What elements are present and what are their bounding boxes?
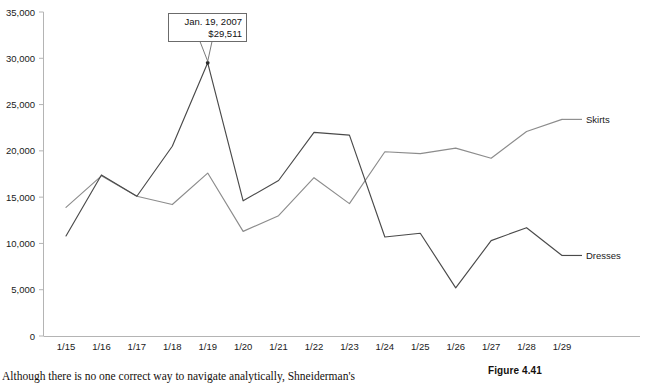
y-tick-label-5000: 5,000 — [11, 284, 35, 295]
figure-caption: Figure 4.41 — [488, 365, 542, 376]
chart-canvas: 35,00030,00025,00020,00015,00010,0005,00… — [0, 0, 655, 362]
x-tick-label-1-27: 1/27 — [482, 341, 501, 352]
y-tick-label-20000: 20,000 — [6, 145, 35, 156]
x-tick-label-1-21: 1/21 — [269, 341, 288, 352]
y-axis-tick-labels: 35,00030,00025,00020,00015,00010,0005,00… — [6, 7, 35, 342]
body-paragraph-text: Although there is no one correct way to … — [2, 370, 432, 383]
x-tick-label-1-28: 1/28 — [517, 341, 536, 352]
y-tick-label-35000: 35,000 — [6, 7, 35, 18]
x-tick-label-1-18: 1/18 — [163, 341, 182, 352]
annotation-leader-line — [200, 42, 212, 62]
x-tick-label-1-17: 1/17 — [128, 341, 147, 352]
x-tick-label-1-23: 1/23 — [340, 341, 359, 352]
peak-point-dot[interactable] — [206, 61, 210, 65]
x-tick-label-1-25: 1/25 — [411, 341, 430, 352]
highlighted-data-point[interactable] — [206, 61, 210, 65]
series-inline-labels: SkirtsDresses — [562, 114, 621, 261]
x-tick-label-1-22: 1/22 — [305, 341, 324, 352]
x-tick-label-1-15: 1/15 — [57, 341, 76, 352]
figure-container: 35,00030,00025,00020,00015,00010,0005,00… — [0, 0, 655, 386]
x-tick-label-1-26: 1/26 — [446, 341, 465, 352]
callout-value-label: $29,511 — [208, 28, 242, 39]
x-tick-label-1-19: 1/19 — [198, 341, 217, 352]
callout-pointer-right — [208, 42, 212, 62]
series-line-dresses — [66, 63, 562, 288]
y-tick-label-25000: 25,000 — [6, 99, 35, 110]
chart-series-group — [66, 63, 562, 288]
x-tick-label-1-20: 1/20 — [234, 341, 253, 352]
x-tick-label-1-29: 1/29 — [553, 341, 572, 352]
y-tick-label-15000: 15,000 — [6, 192, 35, 203]
series-label-skirts: Skirts — [586, 114, 610, 125]
data-point-callout[interactable]: Jan. 19, 2007 $29,511 — [169, 14, 247, 42]
series-label-dresses: Dresses — [586, 250, 621, 261]
page-footer: Although there is no one correct way to … — [0, 362, 655, 386]
y-tick-label-10000: 10,000 — [6, 238, 35, 249]
x-axis-tick-labels: 1/151/161/171/181/191/201/211/221/231/24… — [57, 341, 572, 352]
x-tick-label-1-16: 1/16 — [92, 341, 111, 352]
y-axis-ticks — [39, 12, 44, 336]
chart-axes — [44, 12, 641, 337]
y-tick-label-0: 0 — [30, 331, 35, 342]
line-chart: 35,00030,00025,00020,00015,00010,0005,00… — [0, 0, 655, 362]
series-line-skirts — [66, 119, 562, 231]
y-tick-label-30000: 30,000 — [6, 53, 35, 64]
callout-pointer-left — [200, 42, 208, 62]
x-tick-label-1-24: 1/24 — [376, 341, 395, 352]
callout-date-label: Jan. 19, 2007 — [184, 16, 242, 27]
